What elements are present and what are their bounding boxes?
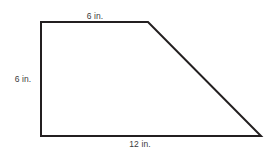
bottom-side-length-label: 12 in. xyxy=(60,139,220,149)
top-side-length-label: 6 in. xyxy=(0,11,190,21)
figure-canvas: 6 in. 6 in. 12 in. xyxy=(0,0,275,157)
trapezoid-outline xyxy=(41,22,261,136)
left-side-length-label: 6 in. xyxy=(0,74,46,84)
